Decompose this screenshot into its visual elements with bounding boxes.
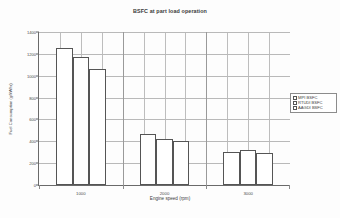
y-tick-mark: [36, 141, 39, 142]
bar: [89, 69, 106, 185]
bar: [156, 139, 173, 185]
category-separator: [123, 32, 124, 185]
x-tick-mark: [206, 185, 207, 189]
y-axis-title: Fuel Consumption (g/kWhr): [8, 83, 13, 134]
category-separator: [206, 32, 207, 185]
x-tick-mark: [289, 185, 290, 189]
y-tick-label: 0: [34, 183, 36, 188]
y-tick-mark: [36, 163, 39, 164]
legend-label: AAGDI BSFC: [298, 106, 323, 110]
y-tick-mark: [36, 119, 39, 120]
x-tick-mark: [123, 185, 124, 189]
plot-area: 0200400600800100012001400100020003000: [38, 32, 290, 186]
y-tick-mark: [36, 75, 39, 76]
bar: [223, 152, 240, 185]
x-tick-mark: [39, 185, 40, 189]
bar: [256, 153, 273, 185]
y-tick-label: 1200: [27, 51, 36, 56]
legend-item: AAGDI BSFC: [293, 106, 336, 110]
gridline: [39, 32, 290, 33]
y-tick-label: 600: [29, 117, 36, 122]
legend-swatch-icon: [293, 101, 297, 105]
y-tick-mark: [36, 32, 39, 33]
bar: [240, 150, 257, 185]
bar: [140, 134, 157, 185]
y-tick-label: 1000: [27, 73, 36, 78]
bar: [56, 48, 73, 185]
chart-legend: MPI BSFCRTUDI BSFCAAGDI BSFC: [290, 93, 337, 113]
chart-container: BSFC at part load operation Fuel Consump…: [0, 0, 340, 218]
legend-swatch-icon: [293, 96, 297, 100]
bar: [73, 57, 90, 185]
y-tick-mark: [36, 53, 39, 54]
y-tick-label: 200: [29, 161, 36, 166]
y-tick-mark: [36, 97, 39, 98]
y-tick-label: 800: [29, 95, 36, 100]
y-tick-label: 1400: [27, 30, 36, 35]
legend-swatch-icon: [293, 106, 297, 110]
gridline: [39, 54, 290, 55]
y-tick-label: 400: [29, 139, 36, 144]
chart-title: BSFC at part load operation: [0, 8, 340, 14]
x-axis-title: Engine speed (rpm): [0, 196, 340, 201]
bar: [173, 141, 190, 185]
